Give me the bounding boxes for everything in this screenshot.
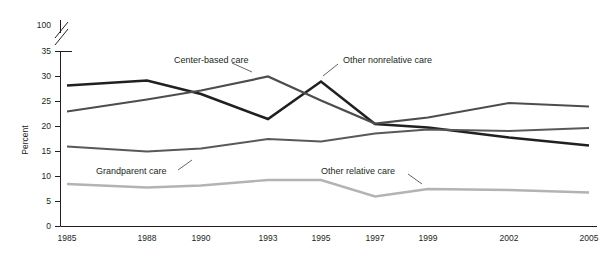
line-chart: 0 5 10 15 20 25 30 35 100 Percent 1985 1… [0,0,610,268]
y-tick-label-25: 25 [42,96,52,106]
series-label-other-relative-care: Other relative care [321,166,395,176]
leader-other-nonrelative-care [323,64,338,76]
x-tick-label-1988: 1988 [138,233,157,243]
x-tick-label-1985: 1985 [58,233,77,243]
y-tick-marks [55,52,72,227]
x-tick-label-1999: 1999 [419,233,438,243]
y-tick-label-5: 5 [46,196,51,206]
y-tick-label-100: 100 [37,20,51,30]
y-tick-label-10: 10 [42,171,52,181]
x-tick-label-2002: 2002 [500,233,519,243]
y-tick-label-30: 30 [42,71,52,81]
series-line-center-based-care [67,77,589,124]
x-tick-label-2005: 2005 [580,233,599,243]
x-tick-label-1997: 1997 [366,233,385,243]
series-label-other-nonrelative-care: Other nonrelative care [343,55,432,65]
series-line-other-relative-care [67,180,589,197]
axis-break-icon [55,22,68,45]
y-tick-label-0: 0 [46,221,51,231]
x-tick-label-1990: 1990 [192,233,211,243]
x-tick-label-1995: 1995 [312,233,331,243]
x-tick-label-1993: 1993 [259,233,278,243]
y-tick-label-20: 20 [42,121,52,131]
series-line-grandparent-care [67,128,589,152]
series-line-other-nonrelative-care [67,81,589,146]
chart-container: 0 5 10 15 20 25 30 35 100 Percent 1985 1… [0,0,610,268]
y-tick-label-15: 15 [42,146,52,156]
series-label-grandparent-care: Grandparent care [96,166,167,176]
y-tick-label-35: 35 [42,46,52,56]
series-label-center-based-care: Center-based care [174,55,249,65]
y-axis-title: Percent [20,125,30,155]
leader-other-relative-care [408,174,422,184]
leader-grandparent-care [178,160,192,170]
